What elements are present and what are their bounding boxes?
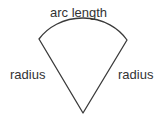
sector-diagram: arc length radius radius [0, 0, 166, 126]
arc-length-label: arc length [50, 5, 107, 20]
radius-label-right: radius [118, 67, 153, 82]
radius-label-left: radius [10, 67, 45, 82]
sector-outline-path [39, 18, 127, 113]
